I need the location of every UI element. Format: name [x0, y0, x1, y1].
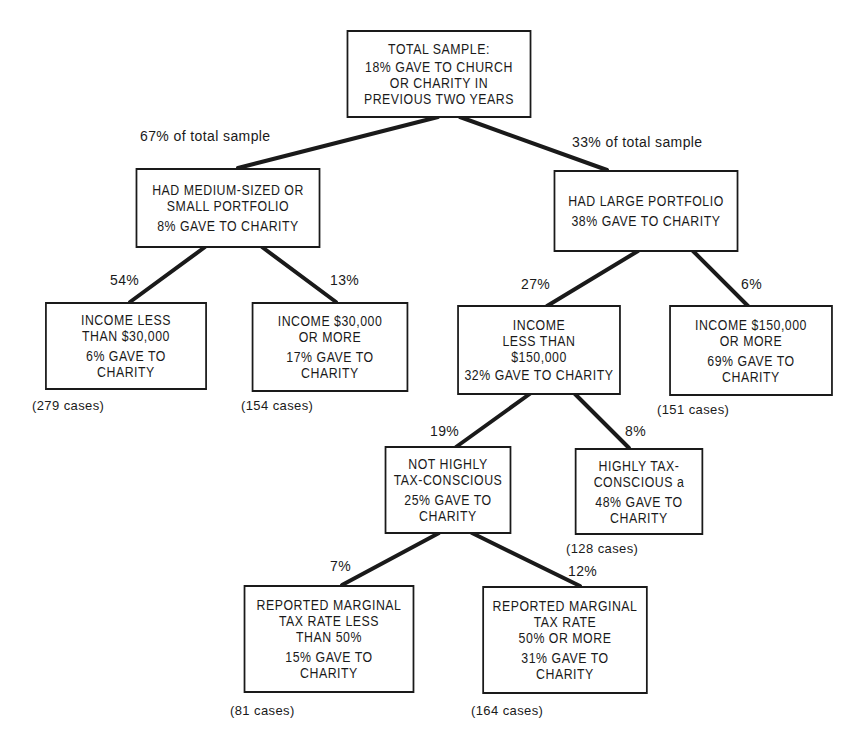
node-income-lt-150k: INCOME LESS THAN $150,000 32% GAVE TO CH…: [457, 305, 621, 395]
cases-128: (128 cases): [566, 541, 638, 556]
node-title: REPORTED MARGINAL TAX RATE LESS THAN 50%: [257, 597, 402, 645]
edge-label-19: 19%: [430, 423, 459, 439]
cases-279: (279 cases): [32, 398, 104, 413]
node-stat: 6% GAVE TO CHARITY: [86, 348, 166, 380]
node-not-highly-tax-conscious: NOT HIGHLY TAX-CONSCIOUS 25% GAVE TO CHA…: [385, 446, 512, 534]
node-title: HAD LARGE PORTFOLIO: [568, 193, 724, 209]
node-title: INCOME $30,000 OR MORE: [278, 313, 383, 345]
node-stat: 31% GAVE TO CHARITY: [521, 650, 608, 682]
cases-164: (164 cases): [471, 703, 543, 718]
cases-154: (154 cases): [241, 398, 313, 413]
node-marginal-rate-lt-50: REPORTED MARGINAL TAX RATE LESS THAN 50%…: [244, 585, 415, 693]
node-stat: 32% GAVE TO CHARITY: [464, 367, 613, 383]
node-title: TOTAL SAMPLE:: [388, 41, 490, 57]
edge-label-54: 54%: [110, 272, 139, 288]
node-highly-tax-conscious: HIGHLY TAX- CONSCIOUS a 48% GAVE TO CHAR…: [575, 448, 703, 535]
edge-label-7: 7%: [330, 558, 351, 574]
edge-label-8: 8%: [625, 423, 646, 439]
node-medium-small-portfolio: HAD MEDIUM-SIZED OR SMALL PORTFOLIO 8% G…: [136, 168, 321, 248]
node-stat: 69% GAVE TO CHARITY: [707, 353, 794, 385]
node-stat: 18% GAVE TO CHURCH OR CHARITY IN PREVIOU…: [364, 59, 514, 107]
node-stat: 48% GAVE TO CHARITY: [595, 494, 682, 526]
edge-label-6: 6%: [741, 276, 762, 292]
node-total-sample: TOTAL SAMPLE: 18% GAVE TO CHURCH OR CHAR…: [347, 30, 532, 118]
node-stat: 17% GAVE TO CHARITY: [286, 349, 373, 381]
node-stat: 38% GAVE TO CHARITY: [571, 213, 720, 229]
node-title: REPORTED MARGINAL TAX RATE 50% OR MORE: [493, 598, 638, 646]
edge-label-33: 33% of total sample: [572, 134, 703, 150]
node-stat: 8% GAVE TO CHARITY: [157, 218, 299, 234]
node-income-ge-30k: INCOME $30,000 OR MORE 17% GAVE TO CHARI…: [252, 302, 409, 392]
edge-label-12: 12%: [568, 563, 597, 579]
node-income-lt-30k: INCOME LESS THAN $30,000 6% GAVE TO CHAR…: [45, 302, 207, 390]
node-income-ge-150k: INCOME $150,000 OR MORE 69% GAVE TO CHAR…: [669, 305, 833, 396]
edge-label-27: 27%: [521, 276, 550, 292]
node-title: INCOME LESS THAN $150,000: [502, 317, 575, 365]
node-title: INCOME $150,000 OR MORE: [695, 317, 807, 349]
edge-label-67: 67% of total sample: [140, 128, 271, 144]
cases-151: (151 cases): [657, 402, 729, 417]
node-stat: 25% GAVE TO CHARITY: [404, 492, 491, 524]
node-title: NOT HIGHLY TAX-CONSCIOUS: [394, 456, 503, 488]
node-large-portfolio: HAD LARGE PORTFOLIO 38% GAVE TO CHARITY: [554, 170, 739, 252]
node-marginal-rate-ge-50: REPORTED MARGINAL TAX RATE 50% OR MORE 3…: [482, 586, 647, 694]
cases-81: (81 cases): [230, 703, 295, 718]
node-title: HIGHLY TAX- CONSCIOUS a: [594, 458, 685, 490]
edge-label-13: 13%: [330, 272, 359, 288]
node-title: INCOME LESS THAN $30,000: [81, 312, 171, 344]
node-title: HAD MEDIUM-SIZED OR SMALL PORTFOLIO: [152, 182, 304, 214]
node-stat: 15% GAVE TO CHARITY: [285, 649, 372, 681]
